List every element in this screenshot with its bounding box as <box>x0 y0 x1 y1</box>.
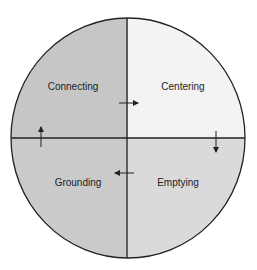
label-emptying: Emptying <box>157 177 199 188</box>
label-connecting: Connecting <box>48 81 99 92</box>
quadrant-connecting <box>0 0 128 138</box>
cycle-diagram: Connecting Centering Emptying Grounding <box>0 0 257 270</box>
quadrant-centering <box>128 0 257 138</box>
label-centering: Centering <box>161 81 204 92</box>
label-grounding: Grounding <box>55 177 102 188</box>
quadrant-grounding <box>0 138 128 270</box>
quadrant-emptying <box>128 138 257 270</box>
